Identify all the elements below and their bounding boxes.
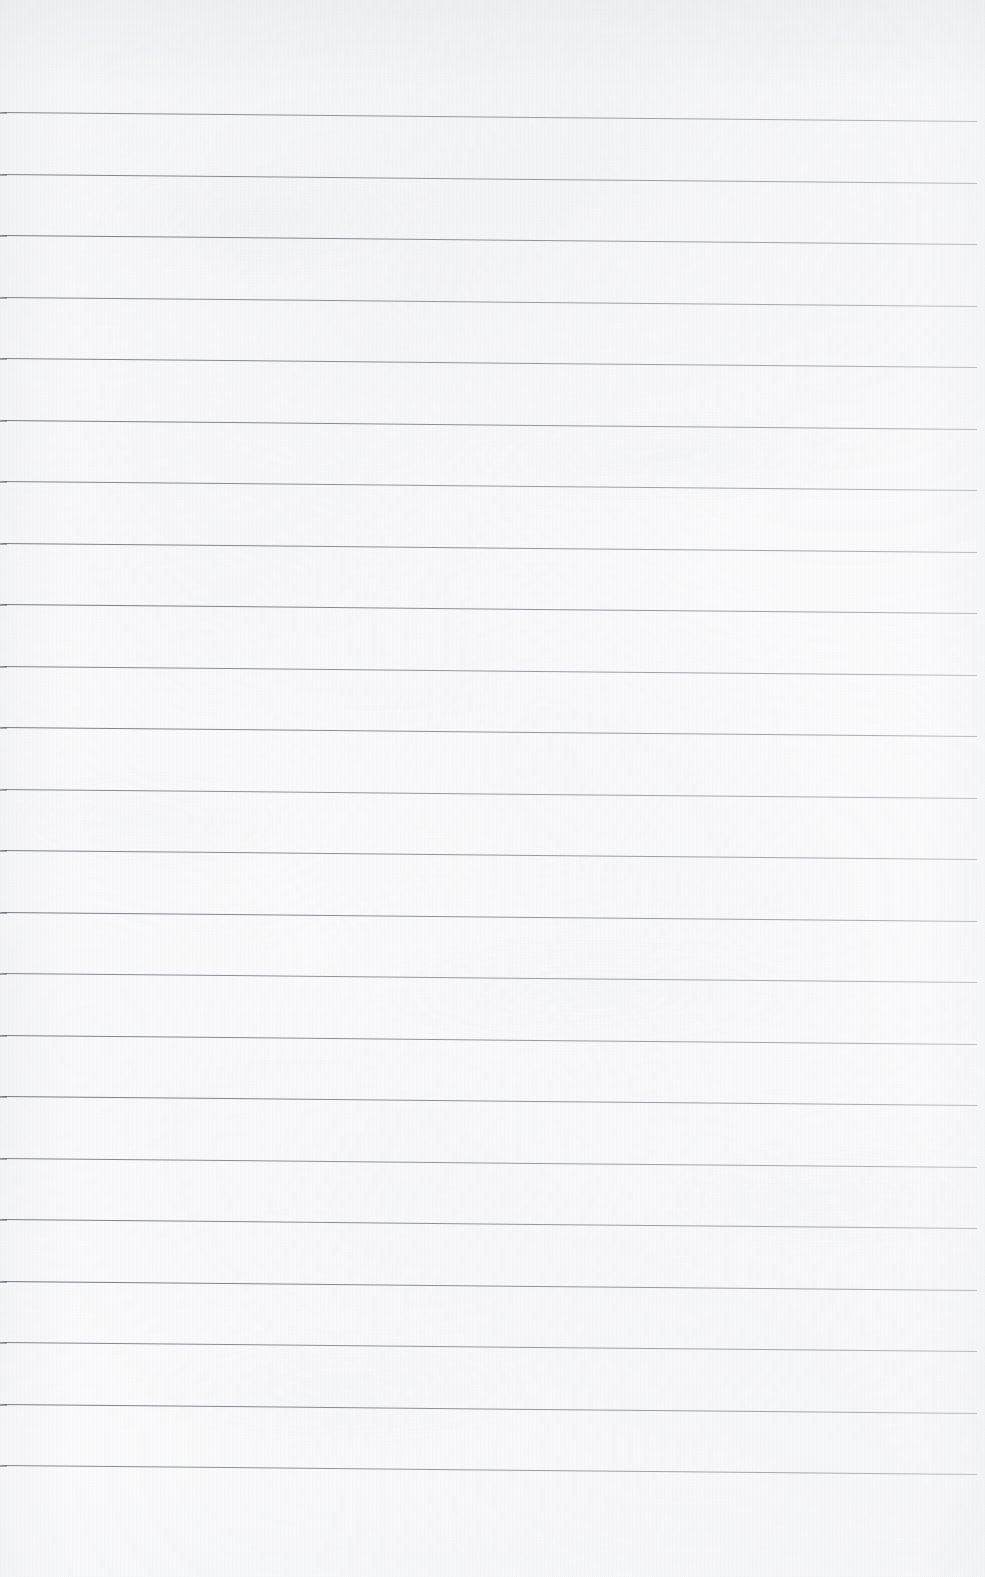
- writing-area[interactable]: [0, 0, 985, 1577]
- notebook-page: [0, 0, 985, 1577]
